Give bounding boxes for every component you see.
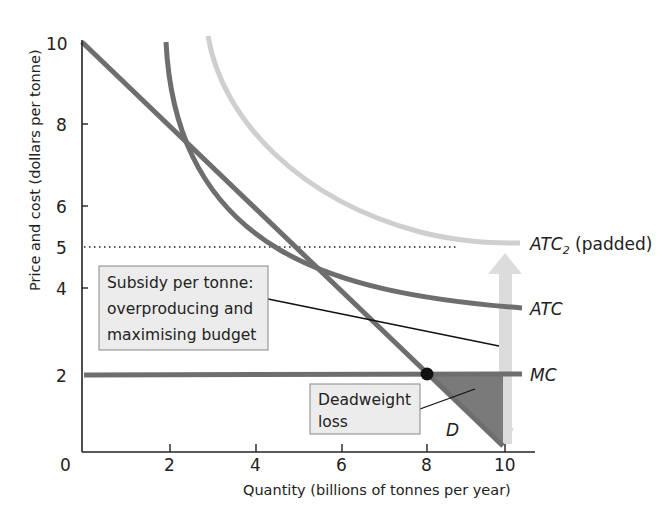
atc2-curve: [208, 36, 520, 243]
y-axis-title: Price and cost (dollars per tonne): [27, 49, 43, 291]
demand-label: D: [446, 420, 459, 440]
x-tick-6: 6: [336, 455, 347, 475]
x-axis-title: Quantity (billions of tonnes per year): [243, 482, 511, 498]
subsidy-annotation: Subsidy per tonne: overproducing and max…: [99, 266, 499, 350]
subsidy-text-line2: overproducing and: [107, 300, 253, 318]
dwl-text-line1: Deadweight: [318, 391, 411, 409]
atc-label: ATC: [529, 299, 563, 319]
demand-line: [82, 42, 503, 446]
x-tick-10: 10: [494, 455, 516, 475]
x-tick-8: 8: [421, 455, 432, 475]
atc2-label: ATC2 (padded): [529, 234, 652, 257]
x-tick-4: 4: [250, 455, 261, 475]
y-tick-4: 4: [56, 279, 67, 299]
atc2-subscript: 2: [563, 244, 570, 257]
y-tick-2: 2: [56, 366, 67, 386]
y-tick-5: 5: [56, 238, 67, 258]
chart-canvas: 10 8 6 5 4 2 0 2 4 6 8 10 Quantity (bill…: [0, 0, 664, 507]
y-tick-10: 10: [46, 34, 68, 54]
equilibrium-point: [421, 368, 434, 381]
dwl-text-line2: loss: [318, 413, 348, 431]
origin-label: 0: [60, 455, 71, 475]
y-tick-8: 8: [56, 115, 67, 135]
mc-label: MC: [530, 365, 557, 385]
subsidy-text-line3: maximising budget: [107, 326, 256, 344]
y-tick-6: 6: [56, 197, 67, 217]
mc-line: [84, 374, 522, 375]
x-tick-2: 2: [164, 455, 175, 475]
subsidy-text-line1: Subsidy per tonne:: [107, 274, 253, 292]
